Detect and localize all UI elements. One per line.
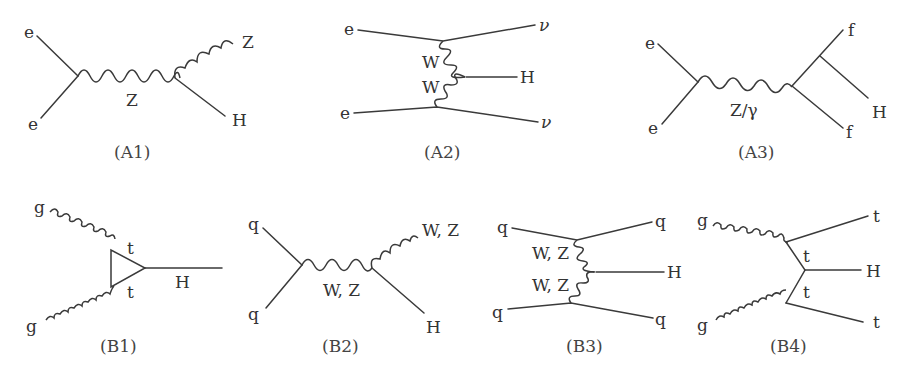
- label-propagator-z-gamma: Z/γ: [730, 100, 758, 120]
- label-e-bottom: e: [340, 103, 350, 123]
- higgs-line: [820, 56, 868, 98]
- boson-out-z: [175, 41, 233, 78]
- label-t-prop-top: t: [803, 246, 810, 266]
- gluon-top: [713, 223, 788, 242]
- label-t-bottom: t: [127, 282, 134, 302]
- quark-line-bottom: [266, 265, 302, 308]
- label-f-bottom: f: [846, 122, 854, 142]
- label-t-out-bottom: t: [873, 312, 880, 332]
- label-higgs: H: [667, 262, 682, 282]
- quark-line-top: [512, 222, 652, 240]
- label-q-bottom: q: [248, 304, 259, 324]
- caption-a3: (A3): [738, 142, 774, 162]
- label-higgs: H: [426, 317, 441, 337]
- label-w-bottom: W: [422, 77, 440, 97]
- diagram-a2: e e ν ν W W H (A2): [340, 15, 551, 162]
- boson-propagator-wz: [302, 260, 372, 271]
- label-higgs: H: [872, 102, 887, 122]
- label-q-top: q: [248, 214, 259, 234]
- boson-out-wz: [371, 236, 418, 268]
- label-higgs: H: [520, 67, 535, 87]
- label-g-bottom: g: [26, 316, 37, 336]
- diagram-b2: q q W, Z W, Z H (B2): [248, 214, 459, 356]
- gluon-bottom: [716, 290, 786, 320]
- label-t-top: t: [127, 238, 134, 258]
- higgs-line: [372, 268, 424, 313]
- label-g-bottom: g: [697, 315, 708, 335]
- fermion-line-top: [358, 25, 535, 41]
- top-quark-out-bottom: [786, 303, 863, 322]
- top-quark-out-top: [786, 216, 868, 242]
- label-out-z: Z: [242, 32, 254, 52]
- fermion-line-e-top: [37, 36, 78, 76]
- fermion-line-f-top: [792, 30, 843, 86]
- label-e-top: e: [344, 19, 354, 39]
- label-out-wz: W, Z: [422, 220, 459, 240]
- higgs-line: [175, 78, 225, 116]
- fermion-line-f-bottom: [792, 86, 843, 128]
- quark-line-bottom: [508, 303, 653, 318]
- label-t-prop-bottom: t: [803, 282, 810, 302]
- caption-b1: (B1): [100, 336, 137, 356]
- label-e-bottom: e: [648, 118, 658, 138]
- diagram-b4: g g t t t t H (B4): [697, 206, 881, 356]
- label-g-top: g: [697, 210, 708, 230]
- label-e-top: e: [24, 22, 34, 42]
- label-propagator-wz: W, Z: [323, 280, 360, 300]
- label-q-top-in: q: [497, 217, 508, 237]
- boson-wz-bottom: [569, 272, 595, 303]
- label-t-out-top: t: [873, 206, 880, 226]
- fermion-line-bottom: [354, 107, 538, 122]
- label-f-top: f: [848, 20, 856, 40]
- fermion-line-e-top: [658, 44, 698, 82]
- label-nu-top: ν: [539, 15, 549, 35]
- boson-wz-top: [574, 240, 594, 272]
- label-e-bottom: e: [28, 114, 38, 134]
- caption-b3: (B3): [566, 336, 603, 356]
- label-higgs: H: [175, 272, 190, 292]
- fermion-line-e-bottom: [41, 76, 78, 118]
- caption-a1: (A1): [114, 142, 150, 162]
- label-higgs: H: [866, 261, 881, 281]
- label-q-top-out: q: [655, 211, 666, 231]
- caption-b4: (B4): [770, 336, 807, 356]
- gluon-top: [50, 209, 115, 239]
- label-q-bottom-out: q: [655, 309, 666, 329]
- feynman-diagram-figure: e e Z Z H (A1) e e ν ν W W H (A2) e e Z/…: [0, 0, 910, 382]
- diagram-a3: e e Z/γ f f H (A3): [645, 20, 887, 162]
- label-wz-top: W, Z: [532, 243, 569, 263]
- label-e-top: e: [645, 33, 655, 53]
- diagram-b1: g g t t H (B1): [26, 197, 222, 356]
- label-g-top: g: [34, 197, 45, 217]
- diagram-b3: q q q q W, Z W, Z H (B3): [492, 211, 682, 356]
- label-wz-bottom: W, Z: [532, 275, 569, 295]
- caption-a2: (A2): [424, 142, 460, 162]
- boson-propagator-z-gamma: [698, 76, 792, 93]
- label-higgs: H: [232, 110, 247, 130]
- fermion-line-e-bottom: [662, 82, 698, 124]
- boson-w-top: [439, 41, 465, 78]
- label-nu-bottom: ν: [541, 112, 551, 132]
- quark-line-top: [263, 228, 302, 265]
- diagram-a1: e e Z Z H (A1): [24, 22, 254, 162]
- label-q-bottom-in: q: [492, 302, 503, 322]
- boson-propagator-z: [78, 70, 180, 82]
- label-propagator-z: Z: [126, 90, 138, 110]
- caption-b2: (B2): [322, 336, 359, 356]
- gluon-bottom: [46, 286, 114, 320]
- label-w-top: W: [422, 52, 440, 72]
